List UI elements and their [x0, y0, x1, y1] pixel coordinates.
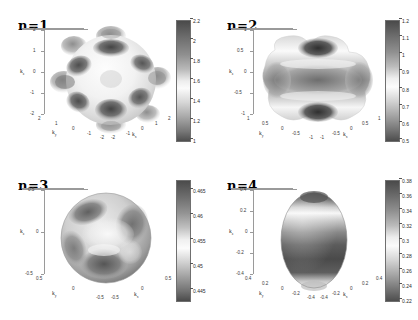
x-tick: -0.4 — [320, 295, 328, 300]
z-axis-label: kz — [20, 228, 24, 236]
z-tick: 0 — [36, 229, 39, 234]
x-tick: -0.5 — [111, 295, 119, 300]
x-tick: 0.5 — [165, 276, 171, 281]
z-tick: -0.4 — [236, 271, 244, 276]
z-tick: 1 — [33, 48, 36, 53]
z-tick: -1 — [30, 90, 34, 95]
z-tick: 0.5 — [28, 187, 34, 192]
x-tick: -2 — [111, 135, 115, 140]
x-tick: 0.4 — [376, 276, 382, 281]
z-tick: 0 — [244, 69, 247, 74]
z-tick: 2 — [33, 27, 36, 32]
x-axis-label: kx — [343, 131, 348, 139]
colorbar-n1: 2.2 2 1.8 1.6 1.4 1.2 1 — [176, 20, 191, 142]
fermi-surface-n2 — [255, 28, 381, 132]
y-tick: 0.5 — [36, 276, 42, 281]
z-tick: -2 — [30, 111, 34, 116]
z-tick: 0 — [33, 69, 36, 74]
y-tick: 0.2 — [262, 281, 268, 286]
z-tick: 0.2 — [240, 208, 246, 213]
y-tick: -0.5 — [96, 295, 104, 300]
y-tick: -2 — [100, 135, 104, 140]
z-tick: -0.5 — [25, 271, 33, 276]
x-tick: 0.2 — [362, 281, 368, 286]
z-tick: -0.2 — [236, 250, 244, 255]
x-tick: 0 — [141, 286, 144, 291]
z-tick: -1 — [241, 111, 245, 116]
z-axis-label: kz — [20, 68, 24, 76]
y-tick: 0 — [72, 286, 75, 291]
y-axis-label: ky — [259, 290, 264, 298]
z-axis-line — [253, 28, 254, 114]
z-axis-line — [44, 28, 45, 114]
y-tick: -1 — [309, 135, 313, 140]
y-tick: 0.4 — [245, 276, 251, 281]
y-tick: 1 — [247, 116, 250, 121]
fermi-surface-n1 — [52, 26, 170, 134]
fermi-surface-n3 — [58, 190, 154, 286]
z-axis-label: kz — [229, 228, 233, 236]
z-tick: 1 — [244, 27, 247, 32]
colorbar-n3: 0.465 0.46 0.455 0.45 0.445 — [176, 180, 191, 302]
colorbar-n4: 0.38 0.36 0.34 0.32 0.3 0.28 0.26 0.24 0… — [385, 180, 400, 302]
fermi-surface-n4 — [272, 186, 356, 294]
y-tick: 2 — [38, 116, 41, 121]
panel-n2: n=2 1 0.5 0 -0.5 -1 kz 1 0.5 0 -0.5 -1 k… — [209, 0, 418, 160]
panel-n4: n=4 0.4 0.2 0 -0.2 -0.4 kz 0.4 0.2 0 -0.… — [209, 160, 418, 320]
colorbar-ticks-n4: 0.38 0.36 0.34 0.32 0.3 0.28 0.26 0.24 0… — [402, 181, 418, 301]
panel-n1: n=1 2 1 0 -1 -2 kz 2 1 0 -1 -2 ky -2 -1 … — [0, 0, 209, 160]
z-axis-label: kz — [229, 68, 233, 76]
z-axis-line — [253, 188, 254, 274]
y-tick: -0.4 — [307, 295, 315, 300]
x-tick: -1 — [320, 135, 324, 140]
panel-n3: n=3 0.5 0 -0.5 kz 0.5 0 -0.5 ky -0.5 0 0… — [0, 160, 209, 320]
x-axis-label: kx — [134, 291, 139, 299]
colorbar-n2: 1.2 1.1 1 0.9 0.8 0.7 0.6 0.5 — [385, 20, 400, 142]
figure-canvas: n=1 2 1 0 -1 -2 kz 2 1 0 -1 -2 ky -2 -1 … — [0, 0, 418, 320]
z-tick: 0.4 — [240, 187, 246, 192]
y-axis-label: ky — [52, 290, 57, 298]
z-axis-line — [44, 188, 45, 274]
colorbar-ticks-n2: 1.2 1.1 1 0.9 0.8 0.7 0.6 0.5 — [402, 21, 418, 141]
z-tick: 0.5 — [237, 48, 243, 53]
z-tick: -0.5 — [234, 90, 242, 95]
z-tick: 0 — [245, 229, 248, 234]
